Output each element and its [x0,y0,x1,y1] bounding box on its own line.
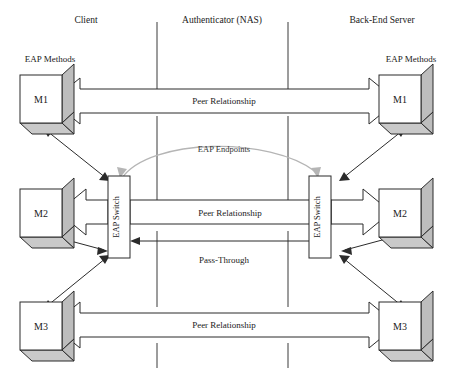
client-m3-label: M3 [34,321,48,332]
client-method-cube-m1[interactable]: M1 [20,64,74,134]
diagram-canvas: Client Authenticator (NAS) Back-End Serv… [0,0,459,378]
connector-server-m3-switch [343,258,402,306]
client-m1-label: M1 [34,94,48,105]
column-header-client: Client [74,15,98,25]
arrowhead-pass-through-left [130,237,140,245]
connector-server-m1-switch [343,131,402,178]
connector-client-m3-switch [47,258,106,306]
label-top-peer-relationship: Peer Relationship [192,96,256,106]
server-eap-switch-label: EAP Switch [312,196,322,238]
eap-architecture-diagram: Client Authenticator (NAS) Back-End Serv… [0,0,459,378]
server-m1-label: M1 [393,94,407,105]
client-method-cube-m3[interactable]: M3 [20,291,74,361]
group-label-server-eap-methods: EAP Methods [386,54,437,64]
label-middle-peer-relationship: Peer Relationship [198,208,262,218]
group-label-client-eap-methods: EAP Methods [25,54,76,64]
client-method-cube-m2[interactable]: M2 [20,178,74,248]
server-method-cube-m3[interactable]: M3 [379,291,433,361]
label-eap-endpoints: EAP Endpoints [198,144,250,154]
arrowhead-server-switch-m2 [341,247,352,255]
label-pass-through: Pass-Through [199,255,249,265]
client-m2-label: M2 [34,208,48,219]
column-header-authenticator: Authenticator (NAS) [182,15,262,26]
server-method-cube-m1[interactable]: M1 [379,64,433,134]
server-method-cube-m2[interactable]: M2 [379,178,433,248]
column-header-backend-server: Back-End Server [349,15,415,25]
label-bottom-peer-relationship: Peer Relationship [192,320,256,330]
server-m3-label: M3 [393,321,407,332]
connector-client-m1-switch [47,131,106,178]
client-eap-switch-label: EAP Switch [111,196,121,238]
arrowhead-client-switch-m2 [97,247,108,255]
server-m2-label: M2 [393,208,407,219]
